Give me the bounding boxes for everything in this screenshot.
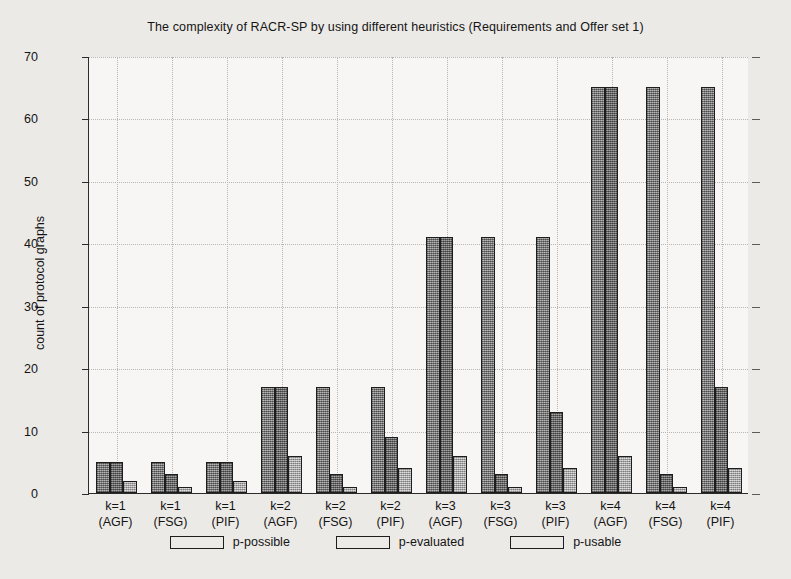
y-tick-label: 70	[0, 50, 38, 64]
y-tick-label: 20	[0, 362, 38, 376]
plot-area	[88, 57, 748, 494]
bar-p-usable[interactable]	[618, 456, 632, 493]
bar-group	[316, 57, 357, 493]
bar-p-possible[interactable]	[701, 87, 715, 493]
y-tick-mark-right	[752, 119, 760, 120]
bar-group	[206, 57, 247, 493]
bar-p-evaluated[interactable]	[275, 387, 289, 493]
y-tick-mark-right	[752, 494, 760, 495]
bar-p-usable[interactable]	[343, 487, 357, 493]
bar-p-evaluated[interactable]	[715, 387, 729, 493]
legend-item[interactable]: p-usable	[510, 535, 621, 549]
bar-group	[646, 57, 687, 493]
bar-chart-figure: The complexity of RACR-SP by using diffe…	[0, 0, 791, 579]
y-tick-label: 40	[0, 237, 38, 251]
bar-group	[536, 57, 577, 493]
x-tick-label-line: (PIF)	[685, 515, 757, 531]
y-axis-label: count of protocol graphs	[33, 83, 47, 483]
bar-p-possible[interactable]	[261, 387, 275, 493]
y-tick-label: 0	[0, 487, 38, 501]
bar-p-possible[interactable]	[371, 387, 385, 493]
y-tick-mark-right	[752, 57, 760, 58]
bar-p-evaluated[interactable]	[550, 412, 564, 493]
bar-p-usable[interactable]	[673, 487, 687, 493]
y-tick-mark-right	[752, 307, 760, 308]
bar-p-usable[interactable]	[178, 487, 192, 493]
y-tick-mark-right	[752, 182, 760, 183]
x-tick-label: k=4(PIF)	[685, 499, 757, 530]
bar-p-evaluated[interactable]	[660, 474, 674, 493]
bar-p-possible[interactable]	[481, 237, 495, 493]
bar-p-possible[interactable]	[646, 87, 660, 493]
y-tick-mark-right	[752, 244, 760, 245]
y-tick-mark-right	[752, 432, 760, 433]
bar-group	[151, 57, 192, 493]
bar-p-evaluated[interactable]	[440, 237, 454, 493]
bar-p-evaluated[interactable]	[220, 462, 234, 493]
legend-swatch-p-usable	[510, 536, 564, 549]
bar-p-usable[interactable]	[288, 456, 302, 493]
bar-p-evaluated[interactable]	[165, 474, 179, 493]
y-tick-label: 50	[0, 175, 38, 189]
bar-group	[96, 57, 137, 493]
y-tick-mark	[82, 494, 89, 495]
bar-p-usable[interactable]	[728, 468, 742, 493]
legend-item[interactable]: p-evaluated	[336, 535, 464, 549]
bar-p-possible[interactable]	[96, 462, 110, 493]
legend-swatch-p-evaluated	[336, 536, 390, 549]
bar-p-evaluated[interactable]	[385, 437, 399, 493]
legend-swatch-p-possible	[170, 536, 224, 549]
bar-p-possible[interactable]	[591, 87, 605, 493]
bar-p-evaluated[interactable]	[605, 87, 619, 493]
x-tick-label-line: k=4	[685, 499, 757, 515]
legend-label: p-usable	[573, 535, 621, 549]
bar-p-possible[interactable]	[316, 387, 330, 493]
bar-p-evaluated[interactable]	[495, 474, 509, 493]
bar-p-usable[interactable]	[453, 456, 467, 493]
bar-group	[371, 57, 412, 493]
bar-p-usable[interactable]	[233, 481, 247, 493]
bar-p-usable[interactable]	[123, 481, 137, 493]
y-tick-mark-right	[752, 369, 760, 370]
chart-title: The complexity of RACR-SP by using diffe…	[0, 20, 791, 34]
bar-p-evaluated[interactable]	[330, 474, 344, 493]
bar-p-usable[interactable]	[563, 468, 577, 493]
bar-p-evaluated[interactable]	[110, 462, 124, 493]
legend-label: p-evaluated	[399, 535, 464, 549]
bar-group	[426, 57, 467, 493]
bar-p-possible[interactable]	[206, 462, 220, 493]
bar-group	[591, 57, 632, 493]
y-tick-label: 30	[0, 300, 38, 314]
y-tick-label: 10	[0, 425, 38, 439]
bar-p-possible[interactable]	[151, 462, 165, 493]
bar-group	[261, 57, 302, 493]
bar-group	[701, 57, 742, 493]
bar-p-possible[interactable]	[426, 237, 440, 493]
bar-p-possible[interactable]	[536, 237, 550, 493]
chart-legend: p-possiblep-evaluatedp-usable	[0, 535, 791, 549]
legend-item[interactable]: p-possible	[170, 535, 290, 549]
bar-p-usable[interactable]	[398, 468, 412, 493]
legend-label: p-possible	[233, 535, 290, 549]
bar-p-usable[interactable]	[508, 487, 522, 493]
y-tick-label: 60	[0, 112, 38, 126]
bar-group	[481, 57, 522, 493]
